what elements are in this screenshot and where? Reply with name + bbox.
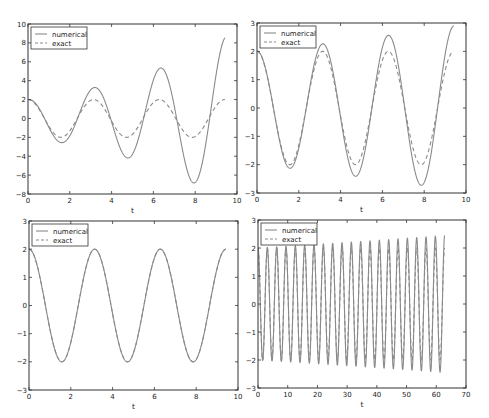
x-tick-label: 50: [402, 391, 411, 399]
y-tick-label: −1: [246, 329, 256, 337]
legend-exact-label: exact: [282, 236, 301, 244]
x-tick-label: 4: [109, 197, 114, 205]
x-tick-label: 2: [297, 196, 301, 204]
y-tick-label: 3: [251, 20, 255, 28]
figure: 0246810−8−6−4−20246810tnumericalexact 02…: [0, 0, 489, 418]
y-tick-label: −4: [16, 153, 27, 161]
axes-frame: [28, 24, 237, 194]
y-tick-label: 6: [22, 58, 27, 66]
y-tick-label: −6: [16, 172, 27, 180]
y-tick-label: 2: [251, 48, 255, 56]
y-tick-label: −8: [16, 191, 26, 199]
series-numerical: [29, 249, 226, 362]
y-tick-label: 4: [22, 77, 27, 85]
legend: numericalexact: [261, 223, 317, 245]
y-tick-label: 1: [23, 274, 27, 282]
x-tick-label: 0: [27, 393, 31, 401]
y-tick-label: 3: [252, 217, 256, 225]
figure-canvas: 0246810−8−6−4−20246810tnumericalexact 02…: [0, 0, 489, 418]
x-tick-label: 20: [313, 391, 322, 399]
y-tick-label: 0: [251, 105, 255, 113]
series-exact: [258, 248, 445, 360]
x-tick-label: 8: [193, 197, 197, 205]
legend: numericalexact: [32, 224, 88, 246]
x-tick-label: 40: [372, 391, 381, 399]
series-numerical: [28, 38, 225, 183]
y-tick-label: −1: [17, 330, 27, 338]
x-tick-label: 0: [255, 196, 259, 204]
y-tick-label: 2: [23, 246, 27, 254]
y-tick-label: 2: [252, 245, 256, 253]
x-tick-label: 30: [343, 391, 352, 399]
subplot-bottom-right: 010203040506070−3−2−10123tnumericalexact: [246, 217, 471, 410]
x-axis-label: t: [361, 400, 364, 409]
series-exact: [257, 51, 454, 164]
x-tick-label: 2: [69, 393, 73, 401]
x-tick-label: 4: [110, 393, 115, 401]
legend: numericalexact: [260, 26, 316, 48]
legend-numerical-label: numerical: [282, 227, 317, 235]
subplot-top-left: 0246810−8−6−4−20246810tnumericalexact: [16, 21, 242, 216]
y-tick-label: 0: [23, 302, 27, 310]
y-tick-label: 1: [252, 273, 256, 281]
y-tick-label: 0: [252, 301, 256, 309]
legend-exact-label: exact: [53, 237, 72, 245]
legend-exact-label: exact: [52, 40, 71, 48]
x-tick-label: 10: [233, 197, 242, 205]
x-tick-label: 6: [151, 197, 156, 205]
subplot-bottom-left: 0246810−3−2−10123tnumericalexact: [17, 218, 243, 412]
x-tick-label: 70: [462, 391, 471, 399]
x-tick-label: 0: [26, 197, 30, 205]
y-tick-label: −2: [245, 161, 255, 169]
y-tick-label: −3: [245, 190, 255, 198]
series-numerical: [258, 236, 445, 373]
x-tick-label: 6: [380, 196, 385, 204]
series-exact: [28, 100, 225, 138]
legend-numerical-label: numerical: [53, 228, 88, 236]
x-tick-label: 8: [422, 196, 426, 204]
x-tick-label: 10: [234, 393, 243, 401]
legend-numerical-label: numerical: [52, 31, 87, 39]
y-tick-label: 2: [22, 96, 26, 104]
y-tick-label: 1: [251, 76, 255, 84]
y-tick-label: −2: [246, 357, 256, 365]
y-tick-label: −3: [17, 387, 27, 395]
y-tick-label: 10: [17, 21, 26, 29]
y-tick-label: 0: [22, 115, 26, 123]
legend-exact-label: exact: [281, 39, 300, 47]
y-tick-label: 3: [23, 218, 27, 226]
x-tick-label: 2: [68, 197, 72, 205]
x-tick-label: 6: [152, 393, 157, 401]
y-tick-label: −1: [245, 133, 255, 141]
y-tick-label: 8: [22, 39, 26, 47]
legend: numericalexact: [31, 27, 87, 49]
x-axis-label: t: [131, 206, 134, 215]
x-tick-label: 10: [283, 391, 292, 399]
series-exact: [29, 249, 226, 362]
x-tick-label: 4: [338, 196, 343, 204]
y-tick-label: −3: [246, 385, 256, 393]
x-tick-label: 0: [256, 391, 260, 399]
subplot-top-right: 0246810−3−2−10123tnumericalexact: [245, 20, 471, 215]
x-tick-label: 10: [462, 196, 471, 204]
x-tick-label: 8: [194, 393, 198, 401]
x-axis-label: t: [360, 205, 363, 214]
legend-numerical-label: numerical: [281, 30, 316, 38]
x-tick-label: 60: [432, 391, 441, 399]
x-axis-label: t: [132, 402, 135, 411]
y-tick-label: −2: [16, 134, 26, 142]
y-tick-label: −2: [17, 358, 27, 366]
